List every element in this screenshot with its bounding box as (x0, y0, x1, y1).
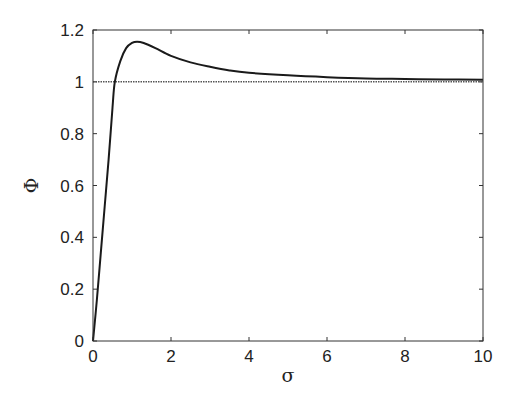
x-tick-label: 8 (400, 347, 409, 366)
y-tick-label: 0.4 (60, 228, 84, 247)
y-axis-label: Φ (20, 178, 42, 194)
x-tick-label: 2 (166, 347, 175, 366)
x-tick-label: 4 (244, 347, 253, 366)
data-curve (93, 42, 483, 341)
x-tick-label: 6 (322, 347, 331, 366)
y-tick-label: 0.2 (60, 280, 84, 299)
x-axis-label: σ (282, 364, 295, 386)
plot-frame (93, 30, 483, 341)
y-tick-label: 0.6 (60, 177, 84, 196)
y-tick-label: 1 (75, 73, 84, 92)
axis-ticks (93, 30, 483, 341)
y-tick-label: 0.8 (60, 125, 84, 144)
tick-labels: 024681000.20.40.60.811.2 (60, 21, 492, 366)
y-tick-label: 1.2 (60, 21, 84, 40)
x-tick-label: 10 (474, 347, 493, 366)
y-tick-label: 0 (75, 332, 84, 351)
x-tick-label: 0 (88, 347, 97, 366)
chart: 024681000.20.40.60.811.2 σ Φ (0, 0, 518, 403)
